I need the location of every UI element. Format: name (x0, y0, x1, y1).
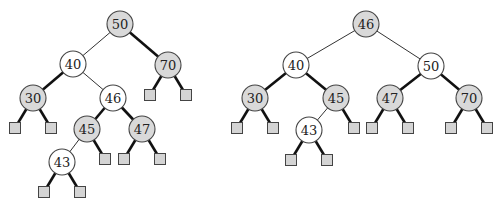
tree-node-45: 45 (323, 85, 349, 111)
node-label: 43 (301, 123, 318, 138)
tree-node-30: 30 (20, 85, 46, 111)
node-label: 46 (105, 91, 122, 106)
node-label: 50 (112, 17, 129, 32)
null-leaf-47-right (403, 123, 414, 134)
tree-node-50: 50 (107, 11, 133, 37)
tree-node-30: 30 (242, 85, 268, 111)
tree-node-40: 40 (283, 52, 309, 78)
node-label: 40 (65, 57, 82, 72)
node-label: 47 (134, 122, 151, 137)
node-label: 50 (423, 59, 440, 74)
node-label: 30 (247, 91, 264, 106)
leaves (232, 123, 493, 166)
node-label: 45 (328, 91, 345, 106)
tree-node-50: 50 (418, 53, 444, 79)
node-label: 46 (358, 17, 375, 32)
null-leaf-30-right (46, 123, 57, 134)
tree-node-70: 70 (155, 52, 181, 78)
red-black-tree-diagram: 5040703046454743 4640503045477043 (0, 0, 497, 204)
null-leaf-47-left (119, 154, 130, 165)
tree-node-70: 70 (456, 85, 482, 111)
null-leaf-30-left (232, 123, 243, 134)
null-leaf-70-left (446, 123, 457, 134)
node-label: 70 (461, 91, 478, 106)
null-leaf-43-right (75, 187, 86, 198)
tree-node-40: 40 (60, 51, 86, 77)
node-label: 30 (25, 91, 42, 106)
null-leaf-47-right (155, 154, 166, 165)
tree-after: 4640503045477043 (232, 11, 493, 166)
tree-node-47: 47 (377, 85, 403, 111)
null-leaf-43-left (39, 187, 50, 198)
null-leaf-30-right (268, 123, 279, 134)
null-leaf-70-right (181, 90, 192, 101)
node-label: 40 (288, 58, 305, 73)
tree-before: 5040703046454743 (10, 11, 192, 198)
tree-node-46: 46 (100, 85, 126, 111)
edges (237, 24, 487, 160)
null-leaf-30-left (10, 123, 21, 134)
null-leaf-43-left (286, 155, 297, 166)
tree-node-46: 46 (353, 11, 379, 37)
null-leaf-70-left (145, 90, 156, 101)
tree-node-45: 45 (74, 116, 100, 142)
null-leaf-45-right (349, 123, 360, 134)
node-label: 43 (54, 155, 71, 170)
tree-node-47: 47 (129, 116, 155, 142)
null-leaf-70-right (482, 123, 493, 134)
node-label: 47 (382, 91, 399, 106)
node-label: 45 (79, 122, 96, 137)
tree-node-43: 43 (296, 117, 322, 143)
null-leaf-47-left (367, 123, 378, 134)
null-leaf-43-right (322, 155, 333, 166)
null-leaf-45-right (100, 154, 111, 165)
node-label: 70 (160, 58, 177, 73)
tree-node-43: 43 (49, 149, 75, 175)
